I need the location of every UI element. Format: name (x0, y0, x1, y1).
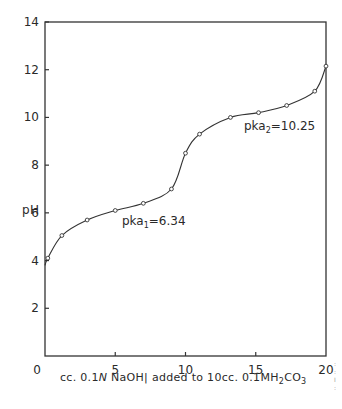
data-point-marker (46, 256, 50, 260)
data-point-marker (229, 116, 233, 120)
data-point-marker (85, 218, 89, 222)
y-axis-label: pH (22, 203, 39, 217)
data-point-marker (184, 151, 188, 155)
data-point-marker (198, 132, 202, 136)
data-point-marker (170, 187, 174, 191)
plot-frame (45, 22, 326, 356)
data-markers (46, 64, 328, 260)
data-point-marker (60, 234, 64, 238)
pka2-annotation: pka2=10.25 (244, 119, 315, 135)
data-point-marker (141, 201, 145, 205)
y-tick-label: 2 (31, 301, 39, 315)
data-curve (45, 66, 326, 265)
margin-artifact: ::I: (334, 360, 336, 392)
y-tick-label: 10 (24, 110, 39, 124)
y-tick-label: 8 (31, 158, 39, 172)
data-point-marker (257, 111, 261, 115)
axis-ticks: 246810121405101520 (24, 15, 334, 377)
data-point-marker (113, 209, 117, 213)
x-tick-label: 20 (318, 363, 333, 377)
y-tick-label: 12 (24, 63, 39, 77)
data-point-marker (313, 89, 317, 93)
y-tick-label: 4 (31, 254, 39, 268)
x-axis-label: cc. 0.1N NaOH| added to 10cc. 0.1MH2CO3 (60, 371, 307, 386)
titration-chart: 246810121405101520 pH cc. 0.1N NaOH| add… (0, 0, 342, 409)
data-point-marker (324, 64, 328, 68)
data-point-marker (285, 104, 289, 108)
x-tick-label: 0 (33, 363, 41, 377)
y-tick-label: 14 (24, 15, 39, 29)
pka1-annotation: pka1=6.34 (122, 214, 186, 230)
